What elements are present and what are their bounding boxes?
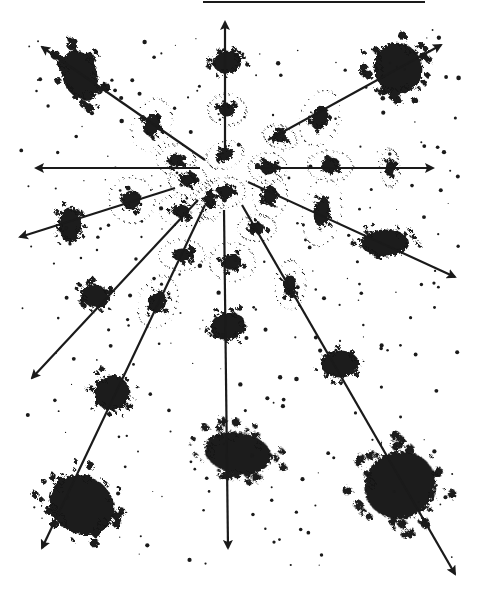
galaxy-small: [109, 177, 156, 224]
galaxy-small: [124, 93, 180, 157]
galaxy-large: [21, 444, 142, 559]
arrow-left-low: [20, 188, 175, 237]
galaxy-medium: [54, 201, 86, 244]
galaxy-small: [155, 191, 207, 230]
galaxy-medium: [78, 361, 145, 427]
galaxy-large: [42, 29, 117, 121]
arrow-down-left-2: [42, 205, 205, 548]
galaxy-medium: [351, 223, 422, 260]
galaxy-small: [237, 214, 276, 242]
arrow-upper-right: [268, 45, 441, 140]
galaxy-small: [307, 150, 354, 182]
expanding-universe-diagram: [0, 0, 477, 592]
galaxy-small: [297, 174, 348, 249]
galaxy-small: [292, 84, 349, 152]
arrow-right-low: [248, 182, 455, 277]
galaxy-large: [329, 418, 465, 554]
galaxy-medium: [206, 47, 249, 78]
galaxy-large: [350, 22, 449, 121]
galaxy-small: [207, 94, 246, 126]
arrow-down-right: [242, 205, 455, 574]
arrow-upper-left: [42, 47, 205, 160]
galaxy-large: [184, 411, 294, 492]
arrow-down-left: [32, 200, 198, 378]
galaxy-small: [209, 242, 256, 281]
